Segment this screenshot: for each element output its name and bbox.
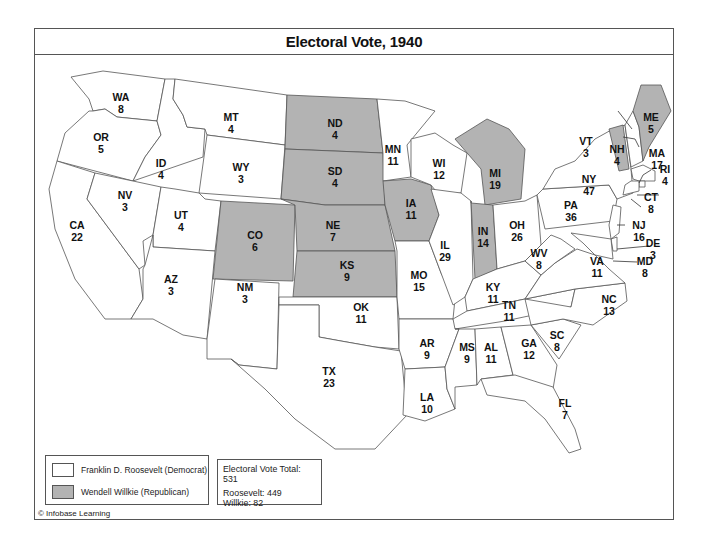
map-frame: Electoral Vote, 1940 WA8OR5CA22ID4NV3MT4… bbox=[34, 28, 674, 520]
state-label-wy: WY bbox=[233, 161, 250, 173]
state-label-nc: NC bbox=[601, 293, 617, 305]
state-label-ia: IA bbox=[406, 197, 417, 209]
state-votes-or: 5 bbox=[98, 143, 104, 155]
state-votes-va: 11 bbox=[591, 267, 602, 279]
state-label-va: VA bbox=[590, 255, 604, 267]
state-votes-co: 6 bbox=[252, 241, 258, 253]
state-votes-in: 14 bbox=[477, 237, 489, 249]
state-label-wi: WI bbox=[433, 157, 446, 169]
state-label-de: DE bbox=[646, 237, 661, 249]
state-label-mn: MN bbox=[385, 143, 401, 155]
state-votes-sc: 8 bbox=[554, 341, 560, 353]
legend-label-republican: Wendell Willkie (Republican) bbox=[81, 487, 189, 497]
legend-item-republican: Wendell Willkie (Republican) bbox=[52, 485, 189, 499]
state-votes-mi: 19 bbox=[489, 179, 501, 191]
electoral-vote-total: Electoral Vote Total: 531 bbox=[223, 464, 316, 484]
state-votes-mo: 15 bbox=[413, 281, 425, 293]
state-votes-nm: 3 bbox=[242, 293, 248, 305]
electoral-totals-box: Electoral Vote Total: 531 Roosevelt: 449… bbox=[217, 459, 322, 505]
state-label-ar: AR bbox=[419, 337, 435, 349]
state-votes-wv: 8 bbox=[536, 259, 542, 271]
state-votes-ar: 9 bbox=[424, 349, 430, 361]
state-label-mi: MI bbox=[489, 167, 501, 179]
state-label-ga: GA bbox=[521, 337, 537, 349]
state-votes-tn: 11 bbox=[503, 311, 514, 323]
state-label-co: CO bbox=[247, 229, 263, 241]
state-votes-az: 3 bbox=[168, 285, 174, 297]
state-votes-oh: 26 bbox=[511, 231, 523, 243]
republican-swatch bbox=[52, 485, 74, 499]
state-label-ny: NY bbox=[582, 173, 597, 185]
state-votes-wi: 12 bbox=[433, 169, 445, 181]
state-votes-il: 29 bbox=[439, 251, 451, 263]
legend-item-democrat: Franklin D. Roosevelt (Democrat) bbox=[52, 463, 207, 477]
state-label-al: AL bbox=[484, 341, 499, 353]
state-label-nh: NH bbox=[609, 143, 624, 155]
state-votes-wy: 3 bbox=[238, 173, 244, 185]
state-label-mo: MO bbox=[411, 269, 428, 281]
legend: Franklin D. Roosevelt (Democrat) Wendell… bbox=[45, 455, 209, 505]
state-label-tn: TN bbox=[502, 299, 516, 311]
state-votes-nd: 4 bbox=[332, 129, 338, 141]
state-label-md: MD bbox=[637, 255, 654, 267]
state-votes-ny: 47 bbox=[583, 185, 595, 197]
democrat-swatch bbox=[52, 463, 74, 477]
state-votes-pa: 36 bbox=[565, 211, 577, 223]
md-leader-line bbox=[613, 261, 637, 262]
state-label-vt: VT bbox=[579, 135, 593, 147]
state-votes-md: 8 bbox=[642, 267, 648, 279]
state-label-in: IN bbox=[478, 225, 489, 237]
state-votes-nc: 13 bbox=[603, 305, 615, 317]
state-label-ca: CA bbox=[69, 219, 85, 231]
state-label-nj: NJ bbox=[632, 219, 646, 231]
us-map: WA8OR5CA22ID4NV3MT4WY3UT4AZ3CO6NM3ND4SD4… bbox=[35, 29, 675, 521]
state-votes-sd: 4 bbox=[332, 177, 338, 189]
state-label-pa: PA bbox=[564, 199, 578, 211]
state-votes-fl: 7 bbox=[562, 409, 568, 421]
state-label-mt: MT bbox=[223, 111, 239, 123]
state-label-ma: MA bbox=[649, 147, 666, 159]
state-votes-ct: 8 bbox=[648, 203, 654, 215]
state-votes-ri: 4 bbox=[662, 175, 668, 187]
state-votes-tx: 23 bbox=[323, 377, 335, 389]
roosevelt-total: Roosevelt: 449 bbox=[223, 488, 316, 498]
state-label-nd: ND bbox=[327, 117, 343, 129]
state-label-ct: CT bbox=[644, 191, 659, 203]
state-votes-ky: 11 bbox=[487, 293, 498, 305]
de-leader-line bbox=[617, 246, 649, 249]
state-votes-mn: 11 bbox=[387, 155, 398, 167]
state-label-ne: NE bbox=[326, 219, 341, 231]
state-label-or: OR bbox=[93, 131, 109, 143]
state-votes-vt: 3 bbox=[583, 147, 589, 159]
state-label-ks: KS bbox=[340, 259, 355, 271]
state-votes-wa: 8 bbox=[118, 103, 124, 115]
state-votes-ne: 7 bbox=[330, 231, 336, 243]
state-votes-ca: 22 bbox=[71, 231, 83, 243]
state-label-la: LA bbox=[420, 391, 434, 403]
state-label-wa: WA bbox=[113, 91, 130, 103]
legend-label-democrat: Franklin D. Roosevelt (Democrat) bbox=[81, 465, 207, 475]
state-votes-me: 5 bbox=[648, 123, 654, 135]
state-label-me: ME bbox=[643, 111, 659, 123]
state-label-nv: NV bbox=[118, 189, 133, 201]
state-votes-nj: 16 bbox=[633, 231, 645, 243]
state-label-wv: WV bbox=[531, 247, 548, 259]
copyright-credit: © Infobase Learning bbox=[38, 509, 110, 518]
state-label-sd: SD bbox=[328, 165, 343, 177]
willkie-total: Willkie: 82 bbox=[223, 498, 316, 508]
state-votes-ks: 9 bbox=[344, 271, 350, 283]
state-votes-nh: 4 bbox=[614, 155, 620, 167]
state-votes-la: 10 bbox=[421, 403, 433, 415]
state-label-il: IL bbox=[440, 239, 450, 251]
state-label-tx: TX bbox=[322, 365, 335, 377]
ct-leader-line bbox=[631, 199, 641, 207]
state-votes-nv: 3 bbox=[122, 201, 128, 213]
state-label-ok: OK bbox=[353, 301, 369, 313]
state-label-fl: FL bbox=[559, 397, 572, 409]
state-votes-ut: 4 bbox=[178, 221, 184, 233]
state-label-ky: KY bbox=[486, 281, 501, 293]
state-votes-ia: 11 bbox=[405, 209, 416, 221]
state-label-az: AZ bbox=[164, 273, 179, 285]
state-votes-ms: 9 bbox=[464, 353, 470, 365]
state-label-sc: SC bbox=[550, 329, 565, 341]
